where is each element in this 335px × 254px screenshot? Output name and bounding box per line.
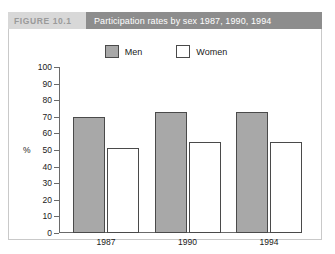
y-tick-label: 50: [43, 145, 52, 155]
bar-group: [155, 67, 221, 233]
y-tick-label: 80: [43, 95, 52, 105]
chart-legend: Men Women: [9, 45, 323, 58]
legend-label-women: Women: [196, 47, 227, 57]
y-tick-label: 30: [43, 178, 52, 188]
plot-area: % 0102030405060708090100 198719901994: [59, 67, 302, 233]
bar-women-1990: [189, 142, 221, 233]
chart-panel: Men Women % 0102030405060708090100 19871…: [8, 29, 322, 240]
y-tick-mark: [54, 233, 59, 234]
legend-entry-women: Women: [176, 45, 227, 58]
x-axis-label: 1987: [73, 237, 139, 247]
figure-container: FIGURE 10.1 Participation rates by sex 1…: [8, 12, 322, 240]
x-axis-label: 1994: [236, 237, 302, 247]
y-tick-label: 60: [43, 128, 52, 138]
bar-men-1994: [236, 112, 268, 233]
bar-women-1994: [270, 142, 302, 233]
legend-label-men: Men: [125, 47, 143, 57]
bar-women-1987: [107, 148, 139, 233]
y-tick-label: 100: [38, 62, 52, 72]
figure-header: FIGURE 10.1 Participation rates by sex 1…: [8, 12, 322, 29]
bar-groups: [59, 67, 302, 233]
x-axis-label: 1990: [155, 237, 221, 247]
bar-group: [236, 67, 302, 233]
legend-swatch-men-icon: [105, 45, 119, 58]
legend-entry-men: Men: [105, 45, 143, 58]
figure-number-label: FIGURE 10.1: [8, 12, 86, 29]
y-axis-title: %: [23, 145, 31, 155]
y-tick-label: 0: [47, 228, 52, 238]
y-tick-label: 70: [43, 112, 52, 122]
legend-swatch-women-icon: [176, 45, 190, 58]
y-tick-label: 20: [43, 195, 52, 205]
bar-men-1987: [73, 117, 105, 233]
y-tick-label: 10: [43, 211, 52, 221]
bar-group: [73, 67, 139, 233]
figure-title: Participation rates by sex 1987, 1990, 1…: [86, 12, 322, 29]
y-tick-label: 90: [43, 79, 52, 89]
y-tick-label: 40: [43, 162, 52, 172]
bar-men-1990: [155, 112, 187, 233]
